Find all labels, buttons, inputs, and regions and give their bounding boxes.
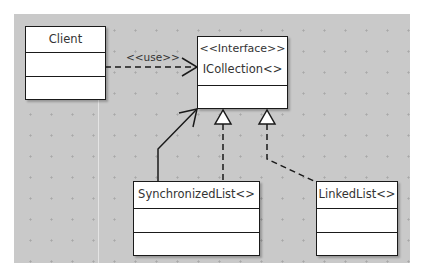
client-attributes-compartment (26, 53, 105, 77)
icollection-operations-compartment (198, 86, 287, 107)
class-name: LinkedList<> (319, 189, 396, 201)
realization-arrow-linkedlist (259, 110, 316, 182)
class-name: ICollection<> (198, 64, 287, 76)
synchronizedlist-name-compartment: SynchronizedList<> (134, 182, 259, 209)
class-synchronizedlist[interactable]: SynchronizedList<> (133, 181, 260, 256)
use-stereotype-label: <<use>> (126, 52, 180, 63)
association-arrow (158, 109, 197, 181)
synchronizedlist-operations-compartment (134, 233, 259, 254)
class-linkedlist[interactable]: LinkedList<> (316, 181, 398, 256)
icollection-name-compartment: <<Interface>> ICollection<> (198, 37, 287, 86)
interface-stereotype: <<Interface>> (198, 43, 287, 54)
linkedlist-attributes-compartment (317, 209, 397, 233)
synchronizedlist-attributes-compartment (134, 209, 259, 233)
client-operations-compartment (26, 77, 105, 98)
class-name: Client (49, 34, 82, 46)
class-name: SynchronizedList<> (138, 189, 255, 201)
realization-arrow-synchronizedlist (215, 110, 231, 181)
linkedlist-name-compartment: LinkedList<> (317, 182, 397, 209)
class-client[interactable]: Client (25, 26, 106, 100)
class-icollection[interactable]: <<Interface>> ICollection<> (197, 36, 288, 109)
client-name-compartment: Client (26, 27, 105, 53)
linkedlist-operations-compartment (317, 233, 397, 254)
